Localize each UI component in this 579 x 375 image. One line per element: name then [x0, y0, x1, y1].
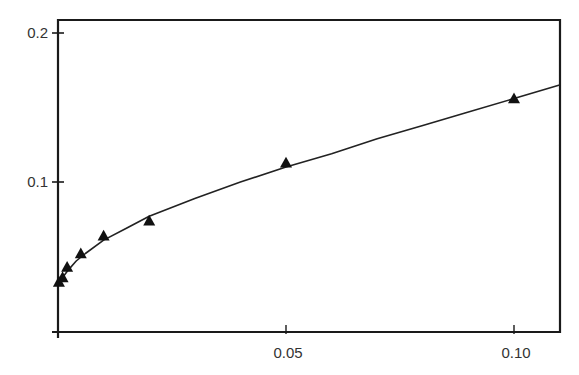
y-tick-label: 0.1 [27, 173, 48, 190]
fit-curve [58, 85, 560, 286]
x-tick-label: 0.05 [273, 344, 302, 361]
axis-ticks: 0.10.20.050.10 [27, 24, 530, 361]
x-tick-label: 0.10 [501, 344, 530, 361]
triangle-marker-icon [143, 215, 155, 226]
chart: 0.10.20.050.10 [0, 0, 579, 375]
triangle-marker-icon [280, 157, 292, 168]
plot-frame [52, 20, 560, 338]
fit-line [58, 85, 560, 286]
data-markers [53, 93, 520, 287]
triangle-marker-icon [98, 230, 110, 241]
y-tick-label: 0.2 [27, 24, 48, 41]
axes-frame [52, 20, 560, 338]
